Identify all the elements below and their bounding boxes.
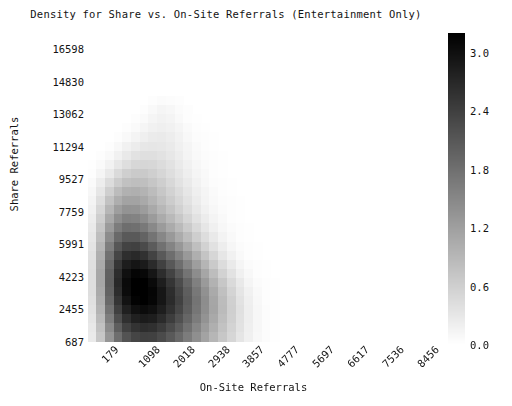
colorbar-tick-label: 3.0 bbox=[470, 47, 489, 58]
x-tick-label: 1098 bbox=[136, 344, 162, 370]
heatmap-canvas[interactable] bbox=[88, 33, 419, 342]
colorbar[interactable]: 0.00.61.21.82.43.0 bbox=[448, 33, 510, 345]
y-tick-label: 4223 bbox=[59, 271, 84, 282]
x-axis-title: On-Site Referrals bbox=[88, 381, 419, 393]
y-tick-label: 14830 bbox=[52, 76, 84, 87]
colorbar-tick-label: 1.8 bbox=[470, 164, 489, 175]
y-tick-label: 9527 bbox=[59, 174, 84, 185]
density-heatmap-figure: Density for Share vs. On-Site Referrals … bbox=[0, 0, 512, 406]
x-tick-label: 4777 bbox=[276, 344, 302, 370]
y-tick-label: 687 bbox=[65, 337, 84, 348]
x-tick-label: 7536 bbox=[380, 344, 406, 370]
y-tick-label: 11294 bbox=[52, 141, 84, 152]
y-tick-label: 2455 bbox=[59, 304, 84, 315]
y-tick-label: 5991 bbox=[59, 239, 84, 250]
colorbar-tick-label: 0.0 bbox=[470, 340, 489, 351]
x-tick-label: 3857 bbox=[241, 344, 267, 370]
x-tick-label: 5697 bbox=[310, 344, 336, 370]
x-tick-label: 6617 bbox=[345, 344, 371, 370]
colorbar-gradient bbox=[448, 33, 465, 345]
plot-area[interactable] bbox=[88, 33, 419, 342]
x-tick-label: 2938 bbox=[206, 344, 232, 370]
x-tick-label: 179 bbox=[100, 344, 121, 365]
y-axis-title: Share Referrals bbox=[8, 104, 20, 224]
x-tick-label: 8456 bbox=[415, 344, 441, 370]
chart-title: Density for Share vs. On-Site Referrals … bbox=[0, 8, 452, 20]
y-tick-label: 16598 bbox=[52, 44, 84, 55]
y-tick-label: 7759 bbox=[59, 206, 84, 217]
colorbar-tick-label: 2.4 bbox=[470, 106, 489, 117]
colorbar-tick-label: 1.2 bbox=[470, 223, 489, 234]
colorbar-tick-label: 0.6 bbox=[470, 281, 489, 292]
x-tick-label: 2018 bbox=[171, 344, 197, 370]
y-tick-label: 13062 bbox=[52, 109, 84, 120]
